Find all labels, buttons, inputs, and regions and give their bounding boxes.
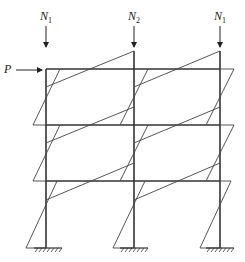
svg-text:1: 1	[48, 16, 52, 25]
load-label-p: P	[3, 62, 12, 76]
svg-text:1: 1	[222, 16, 226, 25]
fixed-support-icon	[34, 248, 62, 252]
fixed-support-icon	[206, 248, 234, 252]
load-label-n1-right: N 1	[213, 9, 226, 25]
axial-load-arrows	[46, 26, 220, 47]
load-label-n1-left: N 1	[39, 9, 52, 25]
svg-text:2: 2	[136, 16, 140, 25]
fixed-support-icon	[120, 248, 148, 252]
moment-diagram	[26, 51, 234, 248]
fixed-supports	[34, 248, 234, 252]
load-label-n2: N 2	[127, 9, 140, 25]
frame-diagram: N 1 N 2 N 1 P	[0, 0, 245, 262]
frame-members	[46, 51, 220, 248]
